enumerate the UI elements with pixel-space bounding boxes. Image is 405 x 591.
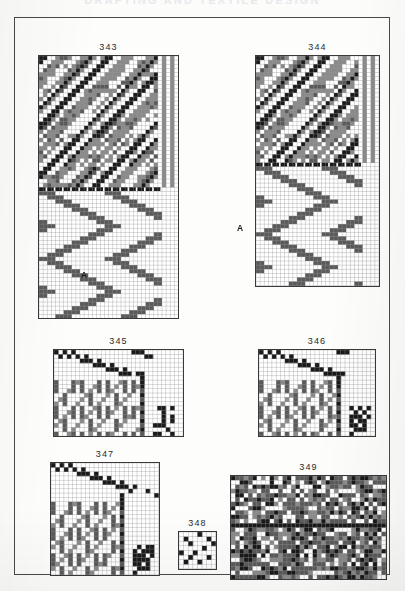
figure-347: 347 (50, 462, 160, 576)
figure-344-caption: 344 (255, 42, 380, 52)
figure-344: 344 (255, 55, 380, 287)
figure-347-grid (50, 462, 160, 576)
figure-347-caption: 347 (50, 449, 160, 459)
figure-346-grid (258, 349, 376, 437)
figure-346-caption: 346 (258, 336, 376, 346)
point-a-label-343: A (81, 270, 88, 280)
scanned-plate-page: DRAFTING AND TEXTILE DESIGN 343 344 345 … (0, 0, 405, 591)
plate-frame: 343 344 345 346 347 348 349 A A (14, 17, 390, 575)
point-a-label-344: A (237, 223, 244, 233)
figure-343-grid (38, 55, 179, 319)
running-head: DRAFTING AND TEXTILE DESIGN (0, 0, 405, 9)
figure-345-grid (53, 349, 184, 437)
figure-348-grid (178, 531, 217, 570)
figure-343: 343 (38, 55, 179, 319)
figure-349-grid (230, 475, 387, 580)
figure-349-caption: 349 (230, 462, 387, 472)
figure-345-caption: 345 (53, 336, 184, 346)
figure-348-caption: 348 (178, 518, 217, 528)
figure-343-caption: 343 (38, 42, 179, 52)
figure-349: 349 (230, 475, 387, 580)
figure-345: 345 (53, 349, 184, 437)
figure-346: 346 (258, 349, 376, 437)
figure-348: 348 (178, 531, 217, 570)
figure-344-grid (255, 55, 380, 287)
